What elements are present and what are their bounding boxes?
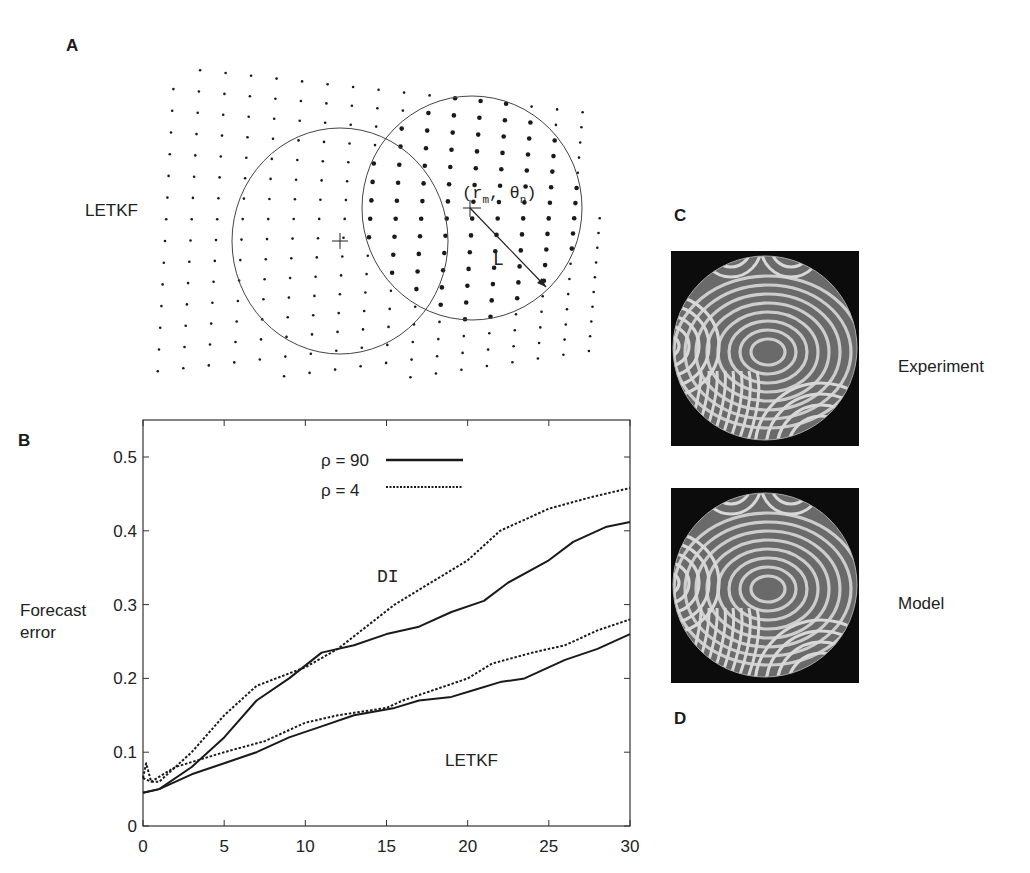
- center-cross-left: [332, 233, 348, 249]
- panel-d-label: D: [674, 709, 686, 729]
- series-letkf-90: [143, 634, 630, 793]
- chart-series: [143, 488, 630, 793]
- panel-c-label: C: [674, 206, 686, 226]
- letkf-annotation: LETKF: [445, 751, 498, 770]
- svg-text:25: 25: [539, 837, 558, 856]
- series-di-90: [143, 522, 630, 793]
- svg-text:15: 15: [377, 837, 396, 856]
- coordinate-label: (rm, θn): [462, 184, 536, 206]
- svg-text:20: 20: [458, 837, 477, 856]
- svg-text:0.4: 0.4: [113, 522, 137, 541]
- radius-arrow: [470, 208, 546, 287]
- svg-text:0.2: 0.2: [113, 669, 137, 688]
- forecast-error-chart: 05101520253000.10.20.30.40.5 ρ = 90 ρ = …: [0, 380, 660, 873]
- svg-text:0.5: 0.5: [113, 448, 137, 467]
- svg-text:10: 10: [296, 837, 315, 856]
- model-caption: Model: [898, 594, 944, 614]
- model-pattern-image: [671, 488, 859, 683]
- experiment-pattern-image: [671, 251, 859, 446]
- svg-text:0.1: 0.1: [113, 743, 137, 762]
- legend-label-rho90: ρ = 90: [321, 451, 369, 470]
- letkf-localization-diagram: L (rm, θn): [0, 0, 640, 390]
- series-letkf-4: [143, 619, 630, 781]
- legend-label-rho4: ρ = 4: [321, 481, 360, 500]
- di-annotation: DI: [377, 567, 399, 587]
- experiment-caption: Experiment: [898, 357, 984, 377]
- svg-text:5: 5: [219, 837, 228, 856]
- stripe-pattern-experiment: [671, 251, 859, 446]
- svg-text:30: 30: [621, 837, 640, 856]
- svg-text:0: 0: [138, 837, 147, 856]
- radius-label: L: [493, 250, 504, 270]
- chart-legend: ρ = 90 ρ = 4: [321, 451, 463, 500]
- svg-text:0.3: 0.3: [113, 596, 137, 615]
- svg-text:0: 0: [128, 817, 137, 836]
- stripe-pattern-model: [671, 488, 859, 683]
